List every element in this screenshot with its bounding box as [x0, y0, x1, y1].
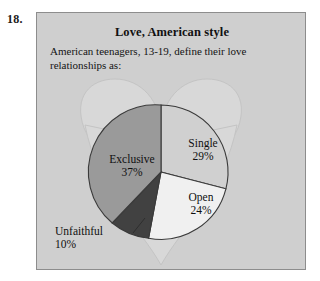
pie-label-exclusive-value: 37% [95, 166, 169, 179]
pie-label-exclusive-name: Exclusive [95, 153, 169, 166]
pie-label-unfaithful: Unfaithful 10% [55, 225, 135, 251]
pie-label-single-value: 29% [173, 150, 233, 163]
figure-root: 18. Love, American style American teenag… [0, 0, 320, 281]
pie-label-open-name: Open [171, 191, 231, 204]
pie-label-open: Open 24% [171, 191, 231, 217]
pie-label-unfaithful-value: 10% [55, 238, 135, 251]
pie-label-single: Single 29% [173, 137, 233, 163]
pie-label-single-name: Single [173, 137, 233, 150]
pie-label-exclusive: Exclusive 37% [95, 153, 169, 179]
pie-label-open-value: 24% [171, 204, 231, 217]
item-number: 18. [7, 12, 23, 27]
chart-panel: Love, American style American teenagers,… [36, 12, 306, 270]
pie-label-unfaithful-name: Unfaithful [55, 225, 135, 238]
